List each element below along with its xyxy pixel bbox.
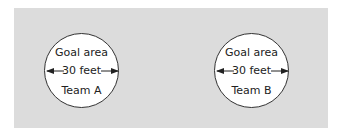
team-label: Team B xyxy=(215,84,288,97)
diameter-label: 30 feet xyxy=(45,64,118,78)
diameter-dimension: 30 feet xyxy=(215,64,288,78)
goal-area-team-b: Goal area 30 feet Team B xyxy=(214,33,289,108)
diameter-dimension: 30 feet xyxy=(45,64,118,78)
team-label: Team A xyxy=(45,84,118,97)
goal-area-label: Goal area xyxy=(215,46,288,59)
goal-area-label: Goal area xyxy=(45,46,118,59)
goal-area-team-a: Goal area 30 feet Team A xyxy=(44,33,119,108)
diameter-label: 30 feet xyxy=(215,64,288,78)
